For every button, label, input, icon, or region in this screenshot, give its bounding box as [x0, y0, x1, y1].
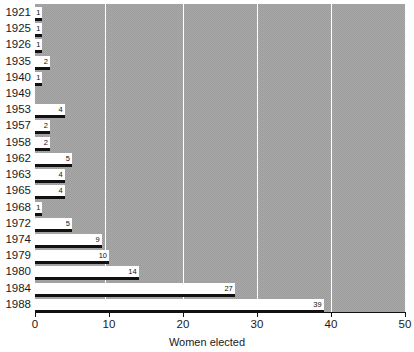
y-axis-tick-label: 1968	[5, 201, 31, 213]
bar-row: 198014	[35, 263, 405, 279]
bar: 5	[35, 153, 72, 167]
bar-row: 19681	[35, 199, 405, 215]
bar-row: 1949	[35, 85, 405, 101]
y-axis-tick-label: 1935	[5, 55, 31, 67]
x-axis-tick-label: 20	[177, 318, 190, 331]
bar-value-label: 4	[58, 185, 62, 196]
bar-value-label: 5	[66, 218, 70, 229]
bar: 5	[35, 218, 72, 232]
y-axis-tick-label: 1949	[5, 87, 31, 99]
bar-chart: 1921119251192611935219401194919534195721…	[0, 0, 414, 352]
y-axis-tick-label: 1965	[5, 184, 31, 196]
bar-row: 19534	[35, 101, 405, 117]
x-axis-tick	[405, 312, 406, 317]
bar-row: 19352	[35, 53, 405, 69]
bar: 1	[35, 39, 42, 53]
bar-value-label: 1	[36, 23, 40, 34]
bar-value-label: 10	[99, 250, 107, 261]
bar-value-label: 9	[95, 234, 99, 245]
bar: 27	[35, 283, 235, 297]
y-axis-tick-label: 1988	[5, 298, 31, 310]
bar: 1	[35, 72, 42, 86]
x-axis-tick	[109, 312, 110, 317]
y-axis-tick-label: 1940	[5, 71, 31, 83]
x-axis-tick	[35, 312, 36, 317]
bar: 9	[35, 234, 102, 248]
bar-row: 19625	[35, 150, 405, 166]
bar-value-label: 14	[128, 266, 136, 277]
bar-row: 198839	[35, 296, 405, 312]
bar: 1	[35, 7, 42, 21]
y-axis-tick-label: 1974	[5, 233, 31, 245]
bar-row: 19572	[35, 117, 405, 133]
bar: 2	[35, 56, 50, 70]
bar-value-label: 39	[313, 299, 321, 310]
bar-row: 19725	[35, 215, 405, 231]
x-axis-tick-label: 30	[251, 318, 264, 331]
bar-value-label: 1	[36, 7, 40, 18]
bar: 1	[35, 23, 42, 37]
x-axis-tick-label: 50	[399, 318, 412, 331]
bar-value-label: 2	[44, 120, 48, 131]
bar-value-label: 1	[36, 72, 40, 83]
bar-value-label: 4	[58, 169, 62, 180]
y-axis-tick-label: 1958	[5, 136, 31, 148]
y-axis-tick-label: 1921	[5, 6, 31, 18]
bar-row: 19749	[35, 231, 405, 247]
x-axis-tick	[331, 312, 332, 317]
bar-row: 19401	[35, 69, 405, 85]
bar-row: 198427	[35, 280, 405, 296]
bar: 4	[35, 185, 65, 199]
bar-row: 19654	[35, 182, 405, 198]
bar-value-label: 4	[58, 104, 62, 115]
bar-row: 19261	[35, 36, 405, 52]
bar-row: 197910	[35, 247, 405, 263]
bar-value-label: 27	[224, 283, 232, 294]
y-axis-tick-label: 1925	[5, 22, 31, 34]
bar: 1	[35, 202, 42, 216]
bar-row: 19211	[35, 4, 405, 20]
y-axis-tick-label: 1962	[5, 152, 31, 164]
bar: 14	[35, 266, 139, 280]
x-axis-tick	[183, 312, 184, 317]
y-axis-tick-label: 1980	[5, 265, 31, 277]
bar: 4	[35, 169, 65, 183]
y-axis-tick-label: 1926	[5, 38, 31, 50]
y-axis-tick-label: 1957	[5, 119, 31, 131]
bar-rows: 1921119251192611935219401194919534195721…	[35, 4, 405, 312]
x-axis-tick-label: 40	[325, 318, 338, 331]
x-axis-tick-label: 10	[103, 318, 116, 331]
y-axis-tick-label: 1963	[5, 168, 31, 180]
x-axis-tick	[257, 312, 258, 317]
bar-value-label: 1	[36, 39, 40, 50]
x-axis-title: Women elected	[0, 336, 414, 349]
bar: 10	[35, 250, 109, 264]
y-axis-tick-label: 1984	[5, 282, 31, 294]
y-axis-tick-label: 1972	[5, 217, 31, 229]
x-axis-tick-label: 0	[32, 318, 38, 331]
y-axis-tick-label: 1979	[5, 249, 31, 261]
bar: 39	[35, 299, 324, 313]
bar-value-label: 2	[44, 137, 48, 148]
bar: 2	[35, 137, 50, 151]
plot-area: 1921119251192611935219401194919534195721…	[35, 4, 405, 312]
bar-value-label: 5	[66, 153, 70, 164]
bar: 2	[35, 120, 50, 134]
bar: 4	[35, 104, 65, 118]
bar-value-label: 1	[36, 202, 40, 213]
bar-row: 19251	[35, 20, 405, 36]
bar-row: 19582	[35, 134, 405, 150]
y-axis-tick-label: 1953	[5, 103, 31, 115]
x-axis-line	[35, 312, 405, 313]
bar-value-label: 2	[44, 56, 48, 67]
bar-row: 19634	[35, 166, 405, 182]
